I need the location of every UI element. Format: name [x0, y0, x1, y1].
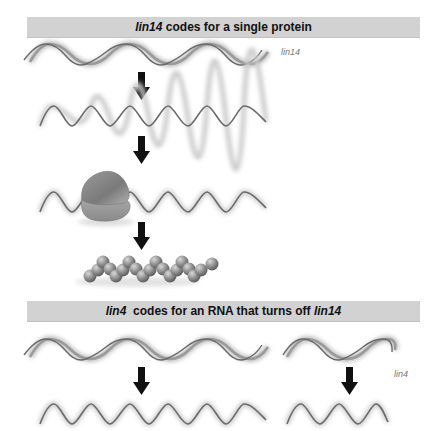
small-rna-lin4	[287, 404, 388, 424]
mrna-strand	[40, 50, 266, 169]
mrna-strand-bottom	[40, 404, 266, 424]
mrna-with-ribosome	[40, 171, 266, 226]
down-arrow-icon	[341, 367, 358, 395]
ribosome-icon	[78, 171, 134, 226]
down-arrow-icon	[133, 136, 150, 164]
dna-helix-lin14-bottom	[24, 339, 268, 360]
dna-helix-lin4	[283, 339, 395, 360]
dna-helix-lin14-top	[24, 44, 268, 65]
protein-chain-icon	[75, 256, 219, 288]
diagram-figure	[0, 0, 443, 431]
down-arrow-icon	[133, 367, 150, 395]
down-arrow-icon	[133, 222, 150, 250]
